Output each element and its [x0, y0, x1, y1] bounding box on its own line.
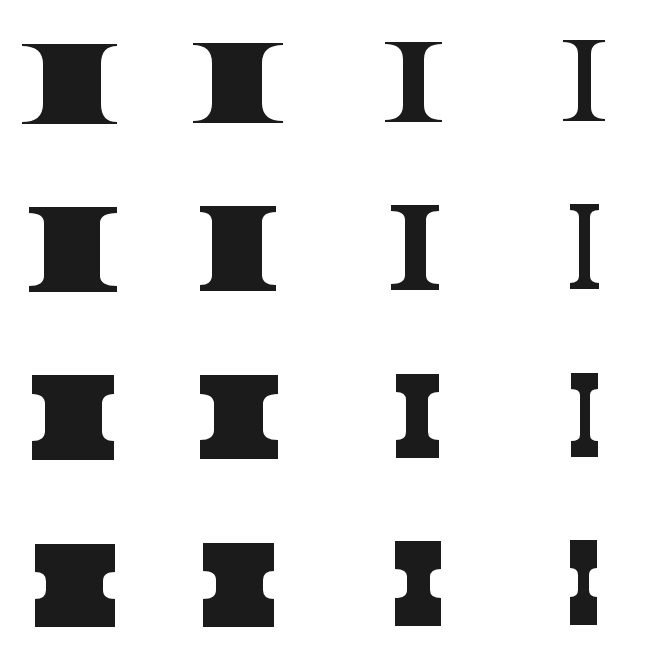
- i-beam-shape-r4-c1: [35, 544, 115, 627]
- shape-grid: [0, 0, 651, 645]
